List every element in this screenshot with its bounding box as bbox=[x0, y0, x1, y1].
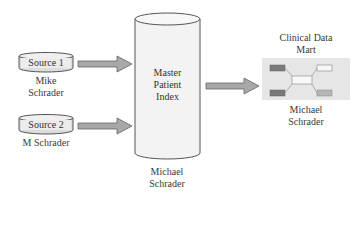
mart-title-line2: Mart bbox=[266, 44, 346, 56]
source-2-owner: M Schrader bbox=[6, 137, 86, 149]
mart-owner-line2: Schrader bbox=[266, 116, 346, 128]
source-1-label: Source 1 bbox=[19, 57, 73, 69]
source-1-owner-text: Mike Schrader bbox=[26, 75, 66, 99]
data-mart-icon bbox=[262, 58, 350, 100]
mpi-owner-line2: Schrader bbox=[132, 178, 202, 190]
arrow-source2-to-mpi bbox=[78, 118, 132, 134]
mpi-owner-line1: Michael bbox=[132, 166, 202, 178]
mpi-title-line1: Master bbox=[135, 67, 200, 79]
arrow-mpi-to-mart bbox=[206, 78, 259, 94]
mart-title-line1: Clinical Data bbox=[266, 32, 346, 44]
mpi-title: Master Patient Index bbox=[135, 67, 200, 103]
arrow-source1-to-mpi bbox=[78, 56, 132, 72]
source-2-label: Source 2 bbox=[19, 119, 73, 131]
mart-title: Clinical Data Mart bbox=[266, 32, 346, 56]
mpi-title-line3: Index bbox=[135, 91, 200, 103]
mart-owner-line1: Michael bbox=[266, 104, 346, 116]
mpi-owner: Michael Schrader bbox=[132, 166, 202, 190]
mpi-title-line2: Patient bbox=[135, 79, 200, 91]
mart-owner: Michael Schrader bbox=[266, 104, 346, 128]
source-1-owner: Mike Schrader bbox=[14, 75, 78, 99]
